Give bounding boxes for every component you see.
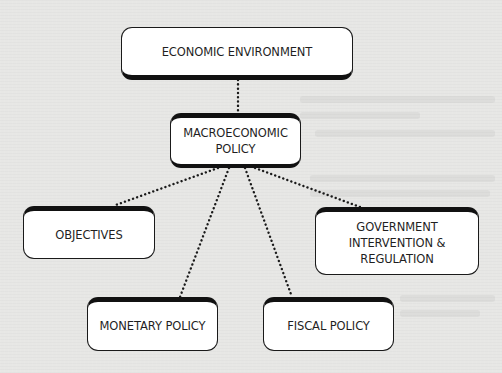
node-label: FISCAL POLICY <box>287 318 370 334</box>
edge-macro-to-fiscal <box>245 168 292 297</box>
node-economic-environment: ECONOMIC ENVIRONMENT <box>121 27 353 80</box>
node-label: GOVERNMENT INTERVENTION & REGULATION <box>349 219 446 267</box>
node-label: OBJECTIVES <box>55 227 122 243</box>
node-label: MONETARY POLICY <box>100 318 206 334</box>
node-government-intervention-regulation: GOVERNMENT INTERVENTION & REGULATION <box>315 207 479 275</box>
node-fiscal-policy: FISCAL POLICY <box>263 297 394 351</box>
node-macroeconomic-policy: MACROECONOMIC POLICY <box>170 113 301 168</box>
edge-macro-to-objectives <box>113 168 218 206</box>
node-objectives: OBJECTIVES <box>23 206 155 259</box>
edge-macro-to-government <box>255 168 360 207</box>
node-label: MACROECONOMIC POLICY <box>183 125 288 157</box>
node-label: ECONOMIC ENVIRONMENT <box>162 44 313 60</box>
edge-macro-to-monetary <box>180 168 229 297</box>
node-monetary-policy: MONETARY POLICY <box>87 297 218 351</box>
